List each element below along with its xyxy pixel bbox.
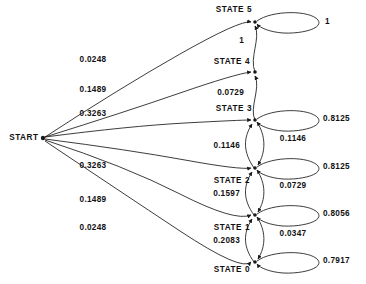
prob-label-state2-to-state1: 0.0729	[280, 182, 307, 190]
prob-label-state3-to-state2: 0.1146	[280, 135, 306, 143]
prob-label-start-to-state0: 0.0248	[80, 224, 107, 232]
node-dot-state1	[253, 213, 257, 217]
node-dot-state4	[253, 70, 257, 74]
edge-state2-to-state1	[257, 170, 264, 212]
node-dot-state2	[253, 166, 257, 170]
self-loop-state5	[257, 13, 319, 34]
prob-label-start-to-state5: 0.0248	[80, 56, 107, 64]
state-label-state3: STATE 3	[216, 105, 252, 113]
edge-state3-to-state4	[253, 76, 256, 120]
state-label-state2: STATE 2	[214, 177, 250, 185]
prob-label-start-to-state4: 0.1489	[80, 86, 107, 94]
edge-state1-to-state0	[257, 217, 264, 259]
prob-label-state2-to-state3: 0.1146	[214, 142, 240, 150]
edge-start-to-state0	[45, 141, 251, 264]
self-loop-state0	[257, 253, 319, 274]
start-node-group	[41, 136, 45, 140]
self-loop-state1	[257, 206, 319, 227]
node-dot-state0	[253, 260, 257, 264]
state-label-state5: STATE 5	[216, 6, 252, 14]
prob-label-self-loop-state3: 0.8125	[323, 115, 350, 123]
edge-state2-to-state3	[245, 124, 254, 168]
prob-label-start-to-state1: 0.1489	[80, 196, 107, 204]
prob-label-start-to-state3: 0.3263	[80, 110, 107, 118]
diagram-canvas	[0, 0, 366, 284]
prob-label-state3-to-state4: 0.0729	[217, 89, 244, 97]
self-loop-state3	[257, 111, 319, 132]
edge-state3-to-state2	[257, 122, 264, 165]
state-label-state4: STATE 4	[214, 58, 250, 66]
state-label-state0: STATE 0	[214, 266, 250, 274]
edge-state4-to-state5	[253, 26, 256, 72]
prob-label-state4-to-state5: 1	[239, 37, 244, 45]
prob-label-start-to-state2: 0.3263	[80, 162, 107, 170]
state-label-state1: STATE 1	[214, 224, 250, 232]
prob-label-state1-to-state2: 0.1597	[213, 190, 240, 198]
prob-label-self-loop-state5: 1	[325, 18, 330, 26]
node-dot-state3	[253, 118, 257, 122]
start-node-label: START	[9, 134, 38, 142]
prob-label-self-loop-state0: 0.7917	[323, 257, 350, 265]
self-loop-state2	[257, 159, 319, 180]
prob-label-self-loop-state2: 0.8125	[323, 163, 350, 171]
downward-transition-edges	[257, 122, 264, 259]
prob-label-state0-to-state1: 0.2083	[213, 237, 240, 245]
edge-start-to-state3	[45, 120, 251, 137]
node-dot-state5	[253, 20, 257, 24]
start-node-dot	[41, 136, 45, 140]
state-transition-diagram: START STATE 5 STATE 4 STATE 3 STATE 2 ST…	[0, 0, 366, 284]
prob-label-state1-to-state0: 0.0347	[280, 230, 307, 238]
prob-label-self-loop-state1: 0.8056	[323, 210, 350, 218]
